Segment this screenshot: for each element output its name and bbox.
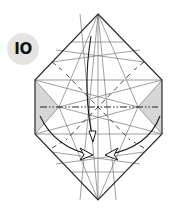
fold-arrows — [40, 36, 160, 160]
origami-diagram — [0, 0, 172, 210]
top-point-down-arrow — [87, 36, 93, 140]
left-arrow-head — [80, 148, 93, 160]
right-arrow-head — [105, 148, 118, 160]
top-arrow-head — [89, 131, 96, 142]
